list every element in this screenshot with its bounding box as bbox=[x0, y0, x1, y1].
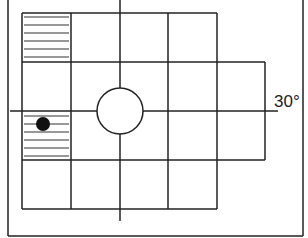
center-circle bbox=[97, 88, 143, 134]
outer-frame bbox=[8, 0, 303, 236]
diagram-canvas bbox=[0, 0, 308, 238]
hatched-cell-top-left bbox=[24, 17, 69, 57]
angle-label: 30° bbox=[274, 93, 300, 110]
position-dot bbox=[36, 117, 50, 131]
